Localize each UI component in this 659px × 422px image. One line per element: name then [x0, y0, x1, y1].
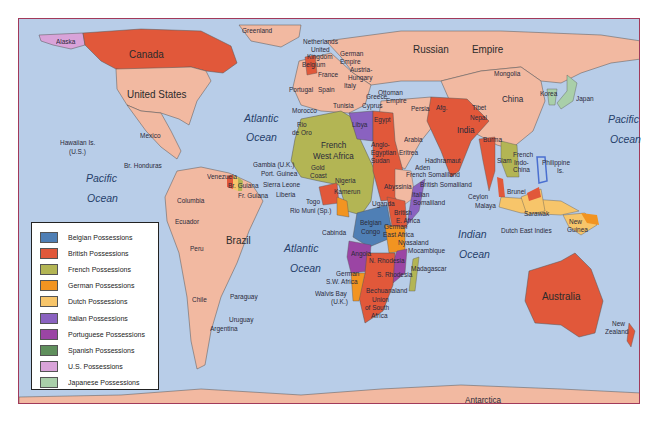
legend-item-us: U.S. Possessions — [40, 359, 158, 375]
label-chile: Chile — [192, 296, 207, 303]
malaya-shape — [497, 177, 505, 197]
ocean-label-pacific-west-2: Ocean — [87, 193, 118, 204]
label-libya: Libya — [352, 121, 367, 128]
label-gambia: Gambia (U.K.) — [253, 161, 294, 168]
label-french-west-africa: French — [321, 141, 346, 150]
ocean-label-pacific-west: Pacific — [86, 173, 117, 184]
label-br-guiana: Br. Guiana — [228, 182, 259, 189]
legend-label: Portuguese Possessions — [68, 330, 145, 339]
ocean-label-atlantic-north: Atlantic — [244, 113, 278, 124]
legend-label: British Possessions — [68, 249, 129, 258]
label-sarawak: Sarawak — [524, 210, 549, 217]
label-german-sw-africa-2: S.W. Africa — [326, 278, 358, 285]
label-rio-de-oro-2: de Oro — [292, 129, 312, 136]
label-burma: Burma — [483, 136, 502, 143]
label-walvis-bay-2: (U.K.) — [331, 298, 348, 305]
label-mocambique: Mocambique — [408, 247, 445, 254]
label-korea: Korea — [540, 90, 557, 97]
label-gold-coast-2: Coast — [310, 172, 327, 179]
legend-label: German Possessions — [68, 281, 134, 290]
legend-item-british: British Possessions — [40, 245, 158, 261]
label-columbia: Columbia — [177, 197, 204, 204]
label-siam: Siam — [497, 157, 512, 164]
label-mongolia: Mongolia — [494, 70, 520, 77]
ocean-label-atlantic-north-2: Ocean — [246, 132, 277, 143]
label-antarctica: Antarctica — [465, 396, 501, 405]
label-russian: Russian — [413, 44, 449, 55]
label-uganda: Uganda — [372, 200, 395, 207]
label-brazil: Brazil — [226, 235, 251, 246]
label-nigeria: Nigeria — [335, 177, 356, 184]
label-canada: Canada — [129, 49, 164, 60]
label-mexico: Mexico — [140, 132, 161, 139]
label-madagascar: Madagascar — [411, 265, 447, 272]
legend-swatch-german — [40, 280, 58, 291]
label-french-somaliland: French Somaliland — [406, 171, 460, 178]
label-tibet: Tibet — [472, 104, 486, 111]
label-alaska: Alaska — [56, 38, 75, 45]
label-philippine-is-2: Is. — [557, 167, 564, 174]
ocean-label-indian: Indian — [458, 229, 487, 240]
legend-label: Belgian Possessions — [68, 233, 132, 242]
label-greenland: Greenland — [242, 27, 272, 34]
label-new-guinea-2: Guinea — [567, 226, 588, 233]
label-union-south-africa-3: Africa — [371, 312, 388, 319]
legend-item-german: German Possessions — [40, 278, 158, 294]
label-france: France — [318, 71, 338, 78]
legend-item-japanese: Japanese Possessions — [40, 375, 158, 391]
label-paraguay: Paraguay — [230, 293, 258, 300]
label-new-zealand-2: Zealand — [605, 328, 628, 335]
label-abyssinia: Abyssinia — [384, 183, 412, 190]
label-rio-muni: Rio Muni (Sp.) — [290, 207, 331, 214]
ocean-label-indian-2: Ocean — [459, 249, 490, 260]
map-legend: Belgian Possessions British Possessions … — [31, 222, 159, 390]
legend-item-spanish: Spanish Possessions — [40, 342, 158, 358]
label-eritrea: Eritrea — [399, 149, 418, 156]
legend-swatch-british — [40, 248, 58, 259]
ocean-label-atlantic-south: Atlantic — [284, 243, 318, 254]
legend-swatch-italian — [40, 313, 58, 324]
label-hawaii-2: (U.S.) — [69, 148, 86, 155]
label-afg: Afg. — [436, 104, 448, 111]
legend-label: Dutch Possessions — [68, 297, 127, 306]
label-sierra-leone: Sierra Leone — [263, 181, 300, 188]
legend-item-portuguese: Portuguese Possessions — [40, 326, 158, 342]
label-china: China — [502, 95, 523, 104]
ocean-label-atlantic-south-2: Ocean — [290, 263, 321, 274]
label-hadhramaut: Hadhramaut — [425, 157, 461, 164]
label-cyprus: Cyprus — [362, 102, 383, 109]
legend-swatch-portuguese — [40, 329, 58, 340]
label-venezuela: Venezuela — [207, 173, 237, 180]
label-togo: Togo — [306, 198, 320, 205]
legend-swatch-belgian — [40, 232, 58, 243]
legend-swatch-japanese — [40, 377, 58, 388]
label-japan: Japan — [576, 95, 594, 102]
label-bechuanaland: Bechuanaland — [366, 287, 407, 294]
ocean-label-pacific-east-2: Ocean — [610, 134, 641, 145]
label-malaya: Malaya — [475, 202, 496, 209]
label-n-rhodesia: N. Rhodesia — [369, 257, 405, 264]
label-italy: Italy — [344, 82, 356, 89]
legend-label: U.S. Possessions — [68, 362, 123, 371]
legend-item-french: French Possessions — [40, 261, 158, 277]
label-india: India — [457, 126, 475, 135]
label-empire: Empire — [472, 44, 503, 55]
label-united-states: United States — [127, 89, 186, 100]
label-nepal: Nepal — [470, 114, 487, 121]
label-kamerun: Kamerun — [334, 188, 360, 195]
label-ottoman-2: Empire — [386, 97, 407, 104]
label-persia: Persia — [411, 105, 429, 112]
label-morocco: Morocco — [292, 107, 317, 114]
label-egypt: Egypt — [374, 116, 391, 123]
label-portugal: Portugal — [289, 86, 313, 93]
label-hawaii: Hawaiian Is. — [60, 139, 95, 146]
legend-item-belgian: Belgian Possessions — [40, 229, 158, 245]
label-brunei: Brunei — [507, 188, 526, 195]
legend-label: Japanese Possessions — [68, 378, 139, 387]
legend-item-dutch: Dutch Possessions — [40, 294, 158, 310]
label-uruguay: Uruguay — [229, 316, 253, 323]
label-ecuador: Ecuador — [175, 218, 199, 225]
label-cabinda: Cabinda — [322, 229, 346, 236]
burma-shape — [479, 137, 495, 191]
label-liberia: Liberia — [276, 191, 295, 198]
